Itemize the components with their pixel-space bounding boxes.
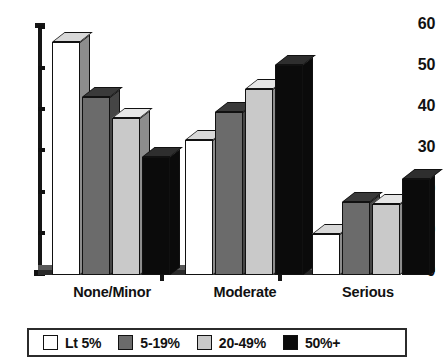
legend-swatch-5-19-icon [118,335,133,350]
y-tick-mark-20 [38,190,45,194]
y-tick-label-30: 30 [405,138,435,156]
legend-label-5-19: 5-19% [140,335,179,351]
x-tick-2 [278,274,282,281]
y-tick-label-50: 50 [405,56,435,74]
bar-serious-50plus[interactable] [402,179,430,275]
bar-serious-5-19[interactable] [342,202,370,275]
x-tick-1 [160,274,164,281]
bar-serious-20-49[interactable] [372,204,400,275]
legend-item-5-19[interactable]: 5-19% [118,335,179,351]
legend-swatch-20-49-icon [197,335,212,350]
y-tick-mark-40 [38,107,45,111]
y-tick-mark-50 [38,66,45,70]
y-tick-mark-10 [38,231,45,235]
legend-swatch-50plus-icon [283,335,298,350]
legend-item-lt5[interactable]: Lt 5% [43,335,101,351]
bar-top [402,169,443,179]
bar-front [185,140,213,275]
bar-front [312,234,340,275]
bar-front [245,89,273,275]
legend-item-50plus[interactable]: 50%+ [283,335,340,351]
plot-area: 60 50 40 30 20 10 0 [0,0,435,312]
bar-front [52,42,80,275]
bar-none-minor-50plus[interactable] [142,157,170,275]
bar-front [402,179,430,275]
bar-front [112,118,140,275]
bar-side [170,149,180,275]
bar-moderate-50plus[interactable] [275,65,303,275]
bar-serious-lt5[interactable] [312,234,340,275]
bar-none-minor-20-49[interactable] [112,118,140,275]
bar-front [82,97,110,275]
y-tick-mark-60 [38,25,45,29]
y-tick-mark-30 [38,148,45,152]
legend-label-20-49: 20-49% [219,335,266,351]
x-label-none-minor: None/Minor [38,284,186,300]
bar-none-minor-lt5[interactable] [52,42,80,275]
bar-front [342,202,370,275]
bar-front [215,112,243,275]
legend-label-lt5: Lt 5% [65,335,101,351]
bar-none-minor-5-19[interactable] [82,97,110,275]
bar-side [430,175,435,275]
chart-legend: Lt 5% 5-19% 20-49% 50%+ [27,328,407,357]
bar-moderate-5-19[interactable] [215,112,243,275]
x-label-serious: Serious [300,284,436,300]
x-label-moderate: Moderate [172,284,318,300]
y-tick-label-60: 60 [405,15,435,33]
bar-front [142,157,170,275]
bar-moderate-lt5[interactable] [185,140,213,275]
bar-front [372,204,400,275]
legend-swatch-lt5-icon [43,335,58,350]
bar-moderate-20-49[interactable] [245,89,273,275]
y-tick-label-40: 40 [405,97,435,115]
legend-item-20-49[interactable]: 20-49% [197,335,266,351]
bar-front [275,65,303,275]
legend-label-50plus: 50%+ [305,335,340,351]
